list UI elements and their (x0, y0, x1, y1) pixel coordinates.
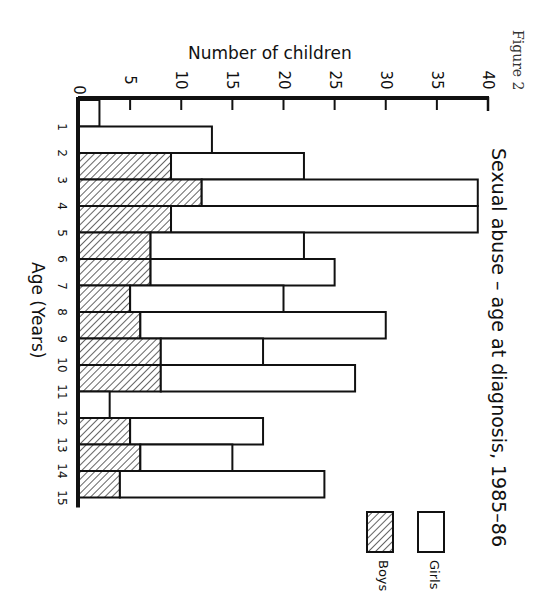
bar-age-11–12 (79, 392, 110, 419)
bar-group (79, 100, 478, 498)
age-tick-label: 6 (55, 247, 69, 271)
bar-girls (151, 233, 304, 260)
bar-girls (151, 259, 335, 286)
bar-boys (79, 259, 151, 286)
value-tick-label: 35 (429, 65, 445, 95)
bar-girls (171, 206, 478, 233)
figure-label: Figure 2 (510, 30, 526, 91)
bar-boys (79, 445, 140, 472)
bar-age-2–3 (79, 153, 304, 180)
value-tick-label: 15 (224, 65, 240, 95)
bar-age-10–11 (79, 365, 355, 392)
bar-boys (79, 233, 151, 260)
bar-girls (202, 180, 478, 207)
age-tick-label: 11 (55, 380, 69, 404)
age-tick-label: 10 (55, 353, 69, 377)
value-tick-label: 5 (122, 65, 138, 95)
age-tick-label: 3 (55, 168, 69, 192)
bar-boys (79, 180, 202, 207)
bar-boys (79, 206, 171, 233)
age-tick-label: 12 (55, 406, 69, 430)
age-tick-label: 9 (55, 327, 69, 351)
legend-swatch-boys (367, 512, 393, 552)
chart-title: Sexual abuse – age at diagnosis, 1985–86 (488, 148, 510, 547)
bar-girls (130, 286, 283, 313)
bar-age-3–4 (79, 180, 478, 207)
age-tick-label: 15 (55, 486, 69, 510)
bar-girls (130, 418, 263, 445)
bar-age-5–6 (79, 233, 304, 260)
age-tick-label: 14 (55, 459, 69, 483)
legend-swatch-girls (418, 512, 444, 552)
bar-boys (79, 418, 130, 445)
bar-age-4–5 (79, 206, 478, 233)
value-tick-label: 40 (480, 65, 496, 95)
age-axis-label: Age (Years) (28, 262, 48, 358)
age-tick-label: 8 (55, 300, 69, 324)
bar-girls (79, 127, 212, 154)
age-tick-label: 13 (55, 433, 69, 457)
bar-girls (79, 392, 110, 419)
bar-boys (79, 365, 161, 392)
legend-label-boys: Boys (376, 560, 391, 591)
value-tick-label: 10 (173, 65, 189, 95)
bar-age-12–13 (79, 418, 263, 445)
bar-age-1–2 (79, 127, 212, 154)
bar-age-13–14 (79, 445, 232, 472)
bar-boys (79, 312, 140, 339)
legend (367, 512, 444, 552)
bar-girls (140, 445, 232, 472)
value-tick-label: 25 (327, 65, 343, 95)
bar-age-6–7 (79, 259, 335, 286)
bar-age-14–15 (79, 471, 324, 498)
age-tick-label: 4 (55, 194, 69, 218)
bar-age-8–9 (79, 312, 386, 339)
age-tick-label: 7 (55, 274, 69, 298)
bar-boys (79, 153, 171, 180)
age-tick-label: 1 (55, 115, 69, 139)
age-tick-label: 2 (55, 141, 69, 165)
value-tick-label: 0 (71, 75, 87, 105)
bar-age-7–8 (79, 286, 284, 313)
bar-age-9–10 (79, 339, 263, 366)
bar-boys (79, 471, 120, 498)
value-tick-label: 20 (276, 65, 292, 95)
bar-girls (140, 312, 385, 339)
value-axis-label: Number of children (188, 43, 352, 63)
bar-boys (79, 286, 130, 313)
bar-girls (161, 339, 263, 366)
legend-label-girls: Girls (427, 560, 442, 589)
value-tick-label: 30 (378, 65, 394, 95)
bar-girls (171, 153, 304, 180)
bar-girls (161, 365, 355, 392)
age-tick-label: 5 (55, 221, 69, 245)
bar-girls (120, 471, 325, 498)
bar-boys (79, 339, 161, 366)
